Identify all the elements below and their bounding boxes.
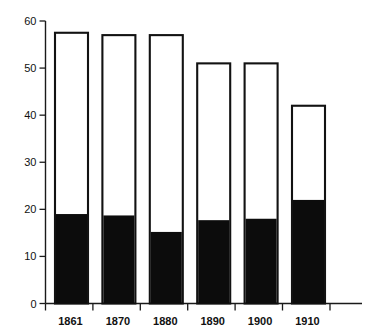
bar-fills bbox=[56, 200, 324, 304]
y-tick-label: 40 bbox=[24, 109, 36, 121]
y-axis-ticks bbox=[40, 21, 46, 304]
y-tick-label: 10 bbox=[24, 250, 36, 262]
bar-outlines bbox=[55, 33, 325, 304]
y-tick-label: 20 bbox=[24, 203, 36, 215]
x-tick-label: 1890 bbox=[200, 315, 224, 327]
bar-filled bbox=[56, 214, 87, 303]
y-tick-label: 60 bbox=[24, 15, 36, 27]
y-tick-label: 50 bbox=[24, 62, 36, 74]
bar-filled bbox=[151, 232, 182, 304]
x-axis-tick-labels: 186118701880189019001910 bbox=[58, 315, 319, 327]
bar-chart: 0102030405060 186118701880189019001910 bbox=[0, 0, 377, 335]
bar-filled bbox=[103, 215, 134, 303]
bar-filled bbox=[293, 200, 324, 304]
x-tick-label: 1870 bbox=[106, 315, 130, 327]
chart-canvas: 0102030405060 186118701880189019001910 bbox=[0, 0, 377, 335]
x-tick-label: 1910 bbox=[295, 315, 319, 327]
x-tick-label: 1861 bbox=[58, 315, 82, 327]
x-tick-label: 1900 bbox=[248, 315, 272, 327]
y-axis-tick-labels: 0102030405060 bbox=[24, 15, 36, 310]
y-tick-label: 30 bbox=[24, 156, 36, 168]
y-tick-label: 0 bbox=[30, 298, 36, 310]
bar-filled bbox=[198, 220, 229, 303]
x-tick-label: 1880 bbox=[153, 315, 177, 327]
bar-filled bbox=[246, 219, 277, 304]
